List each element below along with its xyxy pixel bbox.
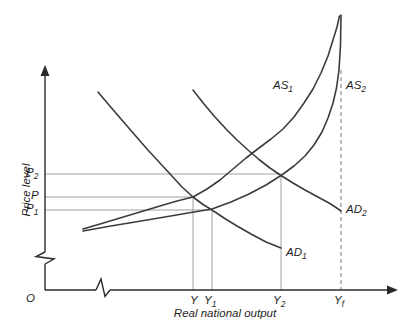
p1-sub: 1 — [34, 207, 39, 217]
curve-label-ad1: AD1 — [286, 246, 307, 260]
as1-sub: 1 — [288, 84, 293, 94]
x-axis-break-icon — [96, 279, 110, 297]
as2-base: AS — [346, 79, 361, 91]
yf-sub: f — [342, 299, 344, 309]
output-tick-y2: Y2 — [273, 294, 285, 308]
curve-label-ad2: AD2 — [346, 203, 367, 217]
ad2-sub: 2 — [362, 208, 367, 218]
origin-label: O — [26, 292, 35, 305]
y1-base: Y — [204, 294, 212, 306]
y-base: Y — [190, 294, 198, 306]
plot-canvas — [0, 0, 411, 335]
ad1-sub: 1 — [302, 251, 307, 261]
yf-base: Y — [334, 294, 342, 306]
y2-base: Y — [273, 294, 281, 306]
as1-base: AS — [273, 79, 288, 91]
ad2-curve — [193, 90, 341, 211]
price-tick-p2: P2 — [26, 166, 38, 180]
as-ad-diagram: Price level Real national output O P2 P … — [0, 0, 411, 335]
axes — [36, 65, 398, 297]
output-tick-yf: Yf — [334, 294, 344, 308]
y-axis-arrow-icon — [41, 65, 50, 76]
curve-label-as1: AS1 — [273, 79, 293, 93]
p2-base: P — [26, 166, 34, 178]
ad1-base: AD — [286, 246, 302, 258]
p2-sub: 2 — [34, 171, 39, 181]
curve-label-as2: AS2 — [346, 79, 366, 93]
y1-sub: 1 — [212, 299, 217, 309]
price-tick-p1: P1 — [26, 202, 38, 216]
y-axis-break-icon — [36, 252, 54, 264]
x-axis-arrow-icon — [387, 286, 398, 295]
price-tick-p: P — [31, 189, 39, 203]
as2-curve — [83, 15, 341, 231]
y2-sub: 2 — [281, 299, 286, 309]
ad1-curve — [98, 92, 281, 248]
p-base: P — [31, 189, 39, 201]
output-tick-y1: Y1 — [204, 294, 216, 308]
p1-base: P — [26, 202, 34, 214]
output-tick-y: Y — [190, 294, 198, 308]
ad2-base: AD — [346, 203, 362, 215]
as2-sub: 2 — [361, 84, 366, 94]
